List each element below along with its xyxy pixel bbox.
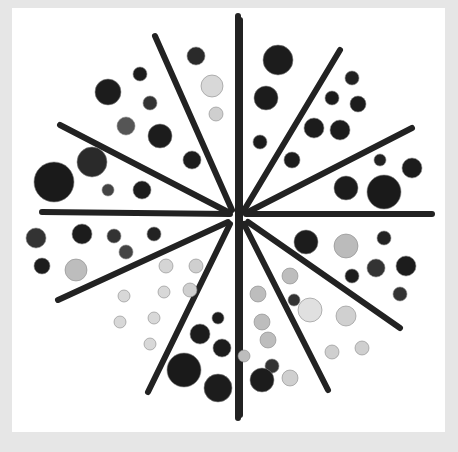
button-object	[77, 147, 107, 177]
button-object	[183, 283, 197, 297]
button-object	[26, 228, 46, 248]
button-object	[238, 350, 250, 362]
button-object	[148, 312, 160, 324]
button-object	[183, 151, 201, 169]
button-object	[374, 154, 386, 166]
button-object	[143, 96, 157, 110]
button-object	[345, 71, 359, 85]
button-object	[114, 316, 126, 328]
button-object	[294, 230, 318, 254]
button-object	[167, 353, 201, 387]
button-object	[190, 324, 210, 344]
button-object	[187, 47, 205, 65]
button-object	[95, 79, 121, 105]
button-object	[250, 286, 266, 302]
button-object	[254, 86, 278, 110]
button-object	[367, 175, 401, 209]
button-object	[334, 234, 358, 258]
button-object	[65, 259, 87, 281]
button-object	[133, 181, 151, 199]
button-object	[304, 118, 324, 138]
button-object	[209, 107, 223, 121]
button-object	[204, 374, 232, 402]
button-object	[263, 45, 293, 75]
button-object	[250, 368, 274, 392]
button-object	[367, 259, 385, 277]
stick	[42, 212, 230, 214]
button-object	[330, 120, 350, 140]
button-object	[334, 176, 358, 200]
button-object	[118, 290, 130, 302]
button-object	[282, 268, 298, 284]
button-object	[144, 338, 156, 350]
button-object	[254, 314, 270, 330]
button-object	[325, 345, 339, 359]
button-object	[189, 259, 203, 273]
button-object	[72, 224, 92, 244]
buttons-photo	[0, 0, 458, 452]
button-object	[159, 259, 173, 273]
button-object	[158, 286, 170, 298]
button-object	[119, 245, 133, 259]
button-object	[350, 96, 366, 112]
button-object	[355, 341, 369, 355]
button-object	[282, 370, 298, 386]
button-object	[260, 332, 276, 348]
button-object	[107, 229, 121, 243]
button-object	[212, 312, 224, 324]
button-object	[34, 258, 50, 274]
button-object	[325, 91, 339, 105]
button-object	[102, 184, 114, 196]
button-object	[377, 231, 391, 245]
button-object	[298, 298, 322, 322]
button-object	[34, 162, 74, 202]
button-object	[148, 124, 172, 148]
button-object	[133, 67, 147, 81]
button-object	[393, 287, 407, 301]
button-object	[288, 294, 300, 306]
button-object	[345, 269, 359, 283]
button-object	[396, 256, 416, 276]
button-object	[147, 227, 161, 241]
button-object	[402, 158, 422, 178]
button-object	[284, 152, 300, 168]
button-object	[201, 75, 223, 97]
button-object	[213, 339, 231, 357]
button-object	[253, 135, 267, 149]
button-object	[117, 117, 135, 135]
button-object	[336, 306, 356, 326]
